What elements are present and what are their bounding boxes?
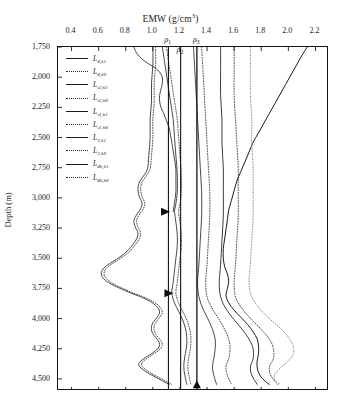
x-tick-label: 2.0 <box>282 26 292 35</box>
x-tick-label: 1.4 <box>201 26 211 35</box>
legend-item-L-s2-h1[interactable]: Ls2,h1 <box>66 78 108 91</box>
chart-legend: L4,h1L4,h0Ls2,h1Ls2,h0Ls1,h1Ls1,h0L3,h1L… <box>66 52 108 184</box>
rho1-label: ρ1 <box>164 35 171 44</box>
legend-item-L-s2-h0[interactable]: Ls2,h0 <box>66 92 108 105</box>
legend-label-subscript: s2,h1 <box>97 85 108 90</box>
legend-item-label: L4,h1 <box>93 55 106 63</box>
series-left-envelope-solid <box>134 47 176 212</box>
y-tick-label: 4,000 <box>10 313 50 322</box>
y-tick-label: 1,750 <box>10 42 50 51</box>
chart-title-main: EMW (g/cm <box>142 14 191 24</box>
y-tick-label: 3,250 <box>10 223 50 232</box>
rho2-subscript: 2 <box>180 49 183 55</box>
legend-item-L-s1-h1[interactable]: Ls1,h1 <box>66 105 108 118</box>
legend-item-label: Ls2,h1 <box>93 81 108 89</box>
legend-label-subscript: s1,h0 <box>97 125 108 130</box>
chart-root: EMW (g/cm3) 0.40.60.81.01.21.41.61.82.02… <box>0 0 341 411</box>
legend-item-label: Ls1,h1 <box>93 108 108 116</box>
legend-item-label: L3,h0 <box>93 147 106 155</box>
series-L-4-h1 <box>101 47 169 384</box>
arrow-marker-bottom <box>193 380 201 388</box>
legend-item-L-3-h0[interactable]: L3,h0 <box>66 144 108 157</box>
legend-item-label: Ls1,h0 <box>93 121 108 129</box>
x-tick-label: 1.0 <box>147 26 157 35</box>
series-L-s2-h1 <box>162 47 187 384</box>
y-tick-label: 2,250 <box>10 102 50 111</box>
y-tick-label: 3,750 <box>10 283 50 292</box>
x-tick-label: 0.4 <box>66 26 76 35</box>
y-tick-label: 2,000 <box>10 72 50 81</box>
series-L-s1-h0 <box>202 47 232 384</box>
legend-line-icon <box>66 137 88 138</box>
y-tick-label: 3,000 <box>10 192 50 201</box>
legend-label-subscript: s2,h0 <box>97 98 108 103</box>
legend-line-icon <box>66 164 88 165</box>
y-tick-label: 2,500 <box>10 132 50 141</box>
x-tick-label: 1.6 <box>228 26 238 35</box>
y-axis-title: Depth (m) <box>3 180 13 240</box>
series-L-4-h0 <box>104 47 172 384</box>
legend-line-icon <box>66 111 88 112</box>
legend-label-subscript: 4,h0 <box>97 72 106 77</box>
legend-line-icon <box>66 58 88 59</box>
legend-item-label: L4,h0 <box>93 68 106 76</box>
legend-label-subscript: 3,h1 <box>97 138 106 143</box>
x-tick-label: 0.8 <box>120 26 130 35</box>
legend-item-label: L4b,h0 <box>93 174 108 182</box>
legend-label-subscript: 4,h1 <box>97 59 106 64</box>
legend-label-subscript: s1,h1 <box>97 112 108 117</box>
series-L-3-h0 <box>234 47 277 384</box>
legend-line-icon <box>66 84 88 85</box>
x-tick-label: 0.6 <box>93 26 103 35</box>
chart-title-tail: ) <box>195 14 198 24</box>
legend-line-icon <box>66 71 88 72</box>
legend-label-subscript: 4b,h0 <box>97 178 108 183</box>
legend-line-icon <box>66 177 88 178</box>
legend-label-subscript: 4b,h1 <box>97 164 108 169</box>
y-tick-label: 4,250 <box>10 343 50 352</box>
x-tick-label: 2.2 <box>309 26 319 35</box>
y-tick-label: 2,750 <box>10 162 50 171</box>
y-tick-label: 3,500 <box>10 253 50 262</box>
legend-line-icon <box>66 150 88 151</box>
series-L-4b-h0 <box>249 47 294 384</box>
x-tick-label: 1.2 <box>174 26 184 35</box>
legend-item-L-4-h0[interactable]: L4,h0 <box>66 65 108 78</box>
legend-line-icon <box>66 98 88 99</box>
legend-item-L-4b-h0[interactable]: L4b,h0 <box>66 171 108 184</box>
legend-item-label: Ls2,h0 <box>93 94 108 102</box>
rho3-subscript: 3 <box>197 39 200 45</box>
rho1-subscript: 1 <box>168 39 171 45</box>
legend-item-L-4b-h1[interactable]: L4b,h1 <box>66 158 108 171</box>
legend-item-L-4-h1[interactable]: L4,h1 <box>66 52 108 65</box>
legend-item-label: L4b,h1 <box>93 160 108 168</box>
x-tick-label: 1.8 <box>255 26 265 35</box>
y-tick-label: 4,500 <box>10 373 50 382</box>
legend-item-L-3-h1[interactable]: L3,h1 <box>66 131 108 144</box>
legend-item-L-s1-h0[interactable]: Ls1,h0 <box>66 118 108 131</box>
rho2-label: ρ2 <box>177 45 184 54</box>
series-L-4b-h1 <box>223 47 307 384</box>
legend-item-label: L3,h1 <box>93 134 106 142</box>
rho3-label: ρ3 <box>193 35 200 44</box>
legend-line-icon <box>66 124 88 125</box>
legend-label-subscript: 3,h0 <box>97 151 106 156</box>
chart-title: EMW (g/cm3) <box>0 12 341 24</box>
